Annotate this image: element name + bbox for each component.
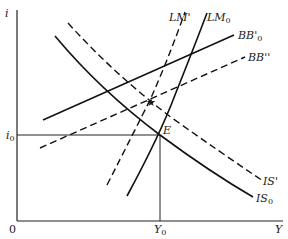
lm0-curve (127, 13, 207, 196)
new-equilibrium-star-icon: ★ (146, 96, 156, 109)
is-lm-bb-diagram: ★ i Y 0 i0 Y0 E IS0 IS' LM0 LM' BB'0 BB'… (0, 0, 288, 239)
equilibrium-e-label: E (162, 124, 171, 137)
is0-label: IS0 (255, 192, 273, 206)
is0-curve (55, 36, 253, 197)
y-axis-label: i (5, 7, 9, 20)
bb-double-prime-line (40, 57, 245, 148)
bb0-prime-line (43, 35, 234, 120)
y0-label: Y0 (154, 223, 166, 237)
lm0-label: LM0 (206, 11, 231, 25)
x-axis-label: Y (275, 223, 284, 236)
bb0-prime-label: BB'0 (237, 29, 262, 43)
lm-prime-label: LM' (168, 11, 191, 24)
origin-label: 0 (9, 223, 16, 236)
is-prime-curve (68, 23, 263, 181)
bb-double-prime-label: BB'' (247, 51, 270, 64)
i0-label: i0 (6, 129, 15, 143)
is-prime-label: IS' (262, 175, 278, 188)
